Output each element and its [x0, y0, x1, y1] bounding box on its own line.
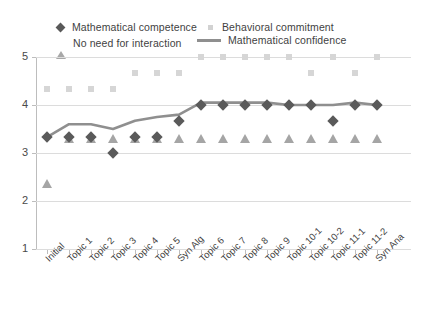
behavioral-commitment-point: [352, 70, 358, 76]
no-need-interaction-point: [284, 134, 294, 143]
legend-label: No need for interaction: [73, 37, 182, 49]
behavioral-commitment-point: [374, 54, 380, 60]
y-tick-label: 3: [6, 146, 28, 158]
y-tick-label: 5: [6, 50, 28, 62]
chart-legend: Mathematical competence No need for inte…: [0, 0, 423, 48]
legend-label: Behavioral commitment: [222, 21, 334, 33]
no-need-interaction-point: [108, 134, 118, 143]
behavioral-commitment-point: [154, 70, 160, 76]
no-need-interaction-point: [350, 134, 360, 143]
legend-item-no-need-for-interaction: No need for interaction: [56, 34, 182, 52]
legend-item-mathematical-competence: Mathematical competence: [56, 21, 197, 33]
legend-item-mathematical-confidence: Mathematical confidence: [197, 34, 346, 46]
square-marker-icon: [206, 23, 215, 32]
chart-canvas: Mathematical competence No need for inte…: [0, 0, 423, 310]
corner-artifact: [3, 295, 13, 303]
behavioral-commitment-point: [220, 54, 226, 60]
behavioral-commitment-point: [66, 86, 72, 92]
behavioral-commitment-point: [198, 54, 204, 60]
behavioral-commitment-point: [110, 86, 116, 92]
triangle-marker-icon: [56, 34, 66, 52]
behavioral-commitment-point: [88, 86, 94, 92]
no-need-interaction-point: [196, 134, 206, 143]
no-need-interaction-point: [218, 134, 228, 143]
y-tick-label: 4: [6, 98, 28, 110]
diamond-marker-icon: [56, 23, 65, 32]
no-need-interaction-point: [240, 134, 250, 143]
legend-item-behavioral-commitment: Behavioral commitment: [206, 21, 334, 33]
y-tick-mark: [32, 249, 36, 250]
legend-label: Mathematical confidence: [228, 34, 346, 46]
behavioral-commitment-point: [286, 54, 292, 60]
behavioral-commitment-point: [242, 54, 248, 60]
no-need-interaction-point: [328, 134, 338, 143]
line-marker-icon: [197, 39, 221, 42]
behavioral-commitment-point: [308, 70, 314, 76]
legend-label: Mathematical competence: [72, 21, 197, 33]
behavioral-commitment-point: [132, 70, 138, 76]
no-need-interaction-point: [42, 179, 52, 188]
no-need-interaction-point: [174, 134, 184, 143]
y-tick-label: 1: [6, 242, 28, 254]
y-tick-label: 2: [6, 194, 28, 206]
behavioral-commitment-point: [176, 70, 182, 76]
no-need-interaction-point: [372, 134, 382, 143]
behavioral-commitment-point: [330, 54, 336, 60]
no-need-interaction-point: [262, 134, 272, 143]
behavioral-commitment-point: [264, 54, 270, 60]
no-need-interaction-point: [306, 134, 316, 143]
behavioral-commitment-point: [44, 86, 50, 92]
